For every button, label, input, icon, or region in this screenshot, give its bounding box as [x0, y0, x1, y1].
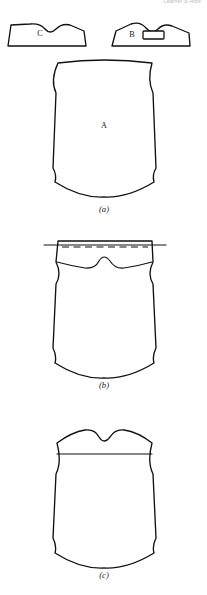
caption-b: (b) — [99, 380, 109, 390]
piece-a-label: A — [101, 121, 107, 130]
caption-a: (a) — [99, 204, 109, 214]
piece-c-outline — [8, 24, 86, 46]
technical-figure: C B A (a) (b) (c) — [0, 0, 207, 595]
figure-root: Leather & Hide C B A (a) (b) (c) — [0, 0, 207, 595]
panel-b-outline — [53, 241, 156, 378]
caption-c: (c) — [99, 570, 109, 580]
piece-b-label: B — [129, 30, 135, 39]
panel-c-outline — [53, 430, 156, 568]
running-header-text: Leather & Hide — [164, 0, 201, 4]
piece-c-label: C — [37, 29, 43, 38]
piece-b-slot-rect — [143, 31, 164, 39]
